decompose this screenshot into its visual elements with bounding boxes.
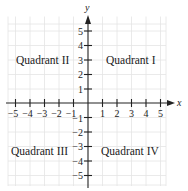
x-tick-label: 5 <box>158 108 163 119</box>
x-tick-label: −5 <box>8 108 19 119</box>
x-tick-label: 3 <box>129 108 134 119</box>
y-tick-label: 3 <box>78 55 83 66</box>
y-tick-label: 5 <box>78 26 83 37</box>
quadrant-1-label: Quadrant I <box>106 54 156 66</box>
coordinate-plane: x y −5 −4 −3 −2 −1 1 2 3 4 5 5 4 3 2 1 −… <box>0 0 188 191</box>
x-tick-label: −3 <box>37 108 48 119</box>
y-axis-arrow-icon <box>85 15 91 24</box>
x-axis-label: x <box>176 97 182 108</box>
x-tick-label: −4 <box>22 108 33 119</box>
y-tick-label: −1 <box>72 113 83 124</box>
y-tick-label: −3 <box>72 141 83 152</box>
x-tick-label: −2 <box>51 108 62 119</box>
x-tick-label: 2 <box>115 108 120 119</box>
y-tick-label: 4 <box>78 40 83 51</box>
y-tick-label: 2 <box>78 69 83 80</box>
quadrant-3-label: Quadrant III <box>11 145 68 157</box>
x-tick-label: 1 <box>100 108 105 119</box>
y-axis <box>84 21 92 188</box>
quadrant-2-label: Quadrant II <box>16 54 69 66</box>
y-tick-label: −4 <box>72 156 83 167</box>
y-tick-label: 1 <box>78 84 83 95</box>
y-tick-label: −2 <box>72 127 83 138</box>
x-tick-label: 4 <box>144 108 149 119</box>
quadrant-4-label: Quadrant IV <box>101 145 159 157</box>
y-tick-label: −5 <box>72 170 83 181</box>
y-axis-label: y <box>84 2 90 13</box>
x-axis-arrow-icon <box>167 100 175 106</box>
